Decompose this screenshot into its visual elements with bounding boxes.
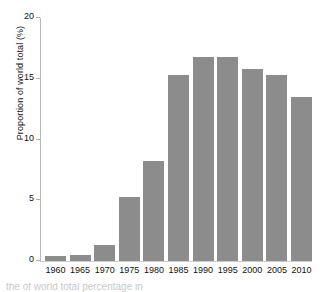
bar-rect <box>45 256 66 261</box>
y-tick-mark <box>36 17 40 18</box>
bar-rect <box>119 197 140 261</box>
y-tick-mark <box>36 260 40 261</box>
x-axis-baseline <box>40 261 312 262</box>
y-tick-label: 15 <box>24 72 34 83</box>
y-axis-label: Proportion of world total (%) <box>15 0 25 173</box>
y-tick-label: 20 <box>24 11 34 22</box>
y-tick-label: 0 <box>29 254 34 265</box>
bar-rect <box>143 161 164 261</box>
x-tick-label-2010: 2010 <box>287 264 316 276</box>
bar-rect <box>217 57 238 261</box>
plot-area: 05101520 <box>40 18 312 262</box>
y-tick-mark <box>36 78 40 79</box>
bar-rect <box>266 75 287 261</box>
bar-rect <box>193 57 214 261</box>
clipped-caption-text: the of world total percentage in <box>6 283 143 292</box>
bar-rect <box>70 255 91 261</box>
clipped-caption: the of world total percentage in <box>0 283 324 292</box>
y-tick-label: 5 <box>29 193 34 204</box>
x-axis-tick-labels: 1960196519701975198019851990199520002005… <box>41 264 312 278</box>
y-tick-mark <box>36 199 40 200</box>
bar-series <box>41 18 312 261</box>
y-tick-mark <box>36 139 40 140</box>
bar-chart-figure: Proportion of world total (%) 05101520 1… <box>0 0 324 292</box>
bar-rect <box>242 69 263 261</box>
bar-rect <box>94 245 115 261</box>
bar-rect <box>291 97 312 261</box>
bar-rect <box>168 75 189 261</box>
y-tick-label: 10 <box>24 133 34 144</box>
